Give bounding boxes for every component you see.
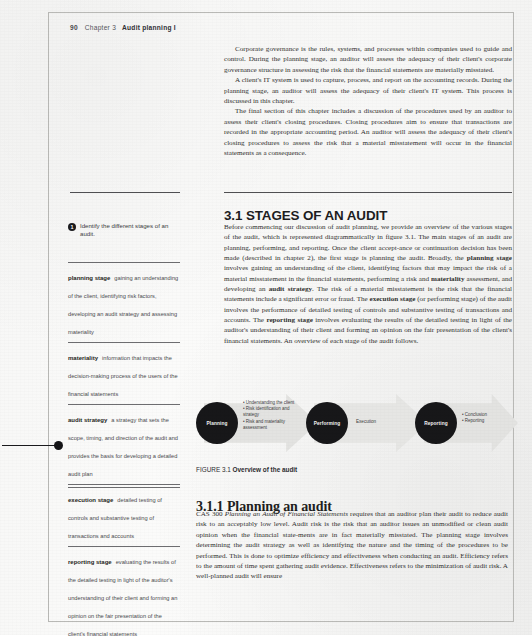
- glossary-term: planning stage: [68, 275, 110, 281]
- glossary-end-rule: [68, 487, 180, 488]
- page-border-right: [513, 12, 514, 622]
- glossary-definition: information that impacts the decision-ma…: [68, 355, 178, 397]
- page-border-top: [48, 12, 514, 13]
- glossary-definition: a strategy that sets the scope, timing, …: [68, 417, 178, 477]
- bullet-item: • Risk identification and strategy: [243, 406, 301, 418]
- margin-glossary: planning stage gaining an understanding …: [68, 262, 180, 640]
- learning-objective-number-icon: 1: [68, 223, 76, 231]
- stage-label-execution: Execution: [356, 419, 416, 424]
- glossary-term: audit strategy: [68, 417, 107, 423]
- chapter-title: Audit planning I: [122, 24, 176, 31]
- standard-title: Planning an Audit of Financial Statement…: [225, 510, 348, 518]
- glossary-entry: materiality information that impacts the…: [68, 342, 180, 404]
- keyterm-planning-stage: planning stage: [467, 254, 512, 262]
- glossary-entry: planning stage gaining an understanding …: [68, 262, 180, 342]
- sidebar-divider-rule: [70, 192, 180, 193]
- stage-circle-planning: Planning: [196, 402, 238, 444]
- standard-code: CAS 300: [196, 510, 223, 518]
- section-divider-rule: [224, 192, 512, 193]
- keyterm-reporting-stage: reporting stage: [266, 316, 312, 324]
- glossary-definition: evaluating the results of the detailed t…: [68, 559, 177, 637]
- figure-caption-title: Overview of the audit: [233, 466, 298, 473]
- glossary-entry: reporting stage evaluating the results o…: [68, 546, 180, 640]
- bullet-item: • Reporting: [462, 418, 514, 424]
- glossary-term: reporting stage: [68, 559, 112, 565]
- figure-overview-of-the-audit: Planning • Understanding the client • Ri…: [196, 388, 514, 460]
- keyterm-materiality: materiality: [431, 275, 464, 283]
- intro-paragraph-3: The final section of this chapter includ…: [224, 106, 512, 158]
- stage-circle-performing: Performing: [306, 402, 348, 444]
- stage-circle-reporting: Reporting: [415, 402, 457, 444]
- glossary-entry: execution stage detailed testing of cont…: [68, 484, 180, 546]
- keyterm-execution-stage: execution stage: [370, 295, 416, 303]
- figure-caption: FIGURE 3.1 Overview of the audit: [196, 466, 506, 473]
- subsection-paragraph-1: CAS 300 Planning an Audit of Financial S…: [196, 509, 508, 582]
- glossary-entry: audit strategy a strategy that sets the …: [68, 404, 180, 484]
- stage-bullets-planning: • Understanding the client • Risk identi…: [243, 400, 301, 431]
- figure-caption-number: FIGURE 3.1: [196, 466, 231, 473]
- bullet-item: • Risk and materiality assessment: [243, 419, 301, 431]
- glossary-definition: detailed testing of controls and substan…: [68, 497, 162, 539]
- glossary-definition: gaining an understanding of the client, …: [68, 275, 178, 335]
- section-heading: 3.1 STAGES OF AN AUDIT: [224, 208, 514, 223]
- section-body-text: Before commencing our discussion of audi…: [224, 222, 512, 346]
- keyterm-audit-strategy: audit strategy: [269, 285, 312, 293]
- intro-paragraph-2: A client's IT system is used to capture,…: [224, 75, 512, 106]
- subsection-text-a: requires that an auditor plan their audi…: [196, 510, 508, 580]
- section-paragraph-1: Before commencing our discussion of audi…: [224, 222, 512, 346]
- page-border-left: [48, 12, 49, 622]
- margin-annotation-dot: [54, 441, 63, 450]
- learning-objective: 1 Identify the different stages of an au…: [68, 222, 180, 239]
- chapter-label: Chapter 3: [85, 24, 116, 31]
- running-head: 90Chapter 3Audit planning I: [70, 24, 370, 31]
- learning-objective-text: Identify the different stages of an audi…: [80, 222, 180, 239]
- page-number: 90: [70, 24, 78, 31]
- intro-paragraph-1: Corporate governance is the rules, syste…: [224, 44, 512, 75]
- glossary-term: execution stage: [68, 497, 113, 503]
- intro-body-text: Corporate governance is the rules, syste…: [224, 44, 512, 158]
- glossary-term: materiality: [68, 355, 98, 361]
- subsection-body-text: CAS 300 Planning an Audit of Financial S…: [196, 509, 508, 582]
- margin-annotation-leader-line: [2, 445, 55, 446]
- stage-bullets-reporting: • Conclusion • Reporting: [462, 412, 514, 424]
